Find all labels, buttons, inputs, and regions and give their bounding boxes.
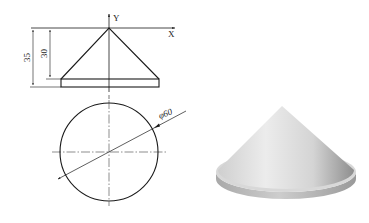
dimension-35-label: 35 (22, 53, 32, 63)
top-view: φ60 (52, 100, 186, 206)
cone-outline (61, 28, 159, 79)
y-axis-label: Y (113, 13, 120, 23)
technical-drawing: X Y 35 30 φ60 (0, 0, 369, 223)
cone-surface (218, 106, 354, 189)
dimension-30-label: 30 (39, 49, 49, 59)
base-outline (61, 79, 159, 87)
cone-3d-render (216, 106, 356, 199)
diameter-leader (58, 111, 186, 179)
x-axis-label: X (168, 29, 175, 39)
diameter-arrow-right (154, 124, 160, 129)
front-view: X Y 35 30 (22, 13, 175, 99)
